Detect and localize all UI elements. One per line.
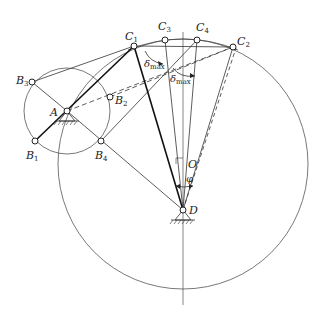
a-b4-ext [67, 111, 183, 210]
d-c3 [165, 40, 183, 210]
label-b4: B4 [94, 149, 108, 163]
b4-c4 [101, 40, 197, 141]
label-c1: C1 [125, 30, 138, 44]
joint-c3 [162, 37, 168, 43]
label-b2: B2 [114, 94, 128, 108]
joint-b3 [29, 79, 35, 85]
joint-c4 [194, 37, 200, 43]
label-delta-max-2: δmax [170, 73, 191, 86]
right-angle-mark [176, 158, 183, 164]
joint-a [64, 108, 70, 114]
a-c2-dashed [110, 47, 233, 97]
label-phi: φ [186, 173, 193, 184]
joint-c2 [230, 44, 236, 50]
joint-b1 [32, 138, 38, 144]
chord-c1-c2 [134, 46, 233, 47]
joint-b4 [98, 138, 104, 144]
label-c2: C2 [237, 35, 250, 49]
label-c4: C4 [196, 21, 209, 35]
label-o: O [188, 158, 197, 171]
label-delta-max-1: δmax [144, 58, 165, 71]
label-a: A [49, 106, 58, 119]
mechanism-diagram: A B1 B2 B3 B4 C1 C2 C3 C4 O D δmax δmax … [0, 0, 328, 318]
b3-c1 [32, 46, 134, 82]
label-d: D [188, 204, 198, 217]
label-b3: B3 [15, 74, 29, 88]
joint-d [180, 207, 186, 213]
joint-b2 [107, 94, 113, 100]
label-b1: B1 [25, 149, 39, 163]
label-c3: C3 [158, 20, 171, 34]
